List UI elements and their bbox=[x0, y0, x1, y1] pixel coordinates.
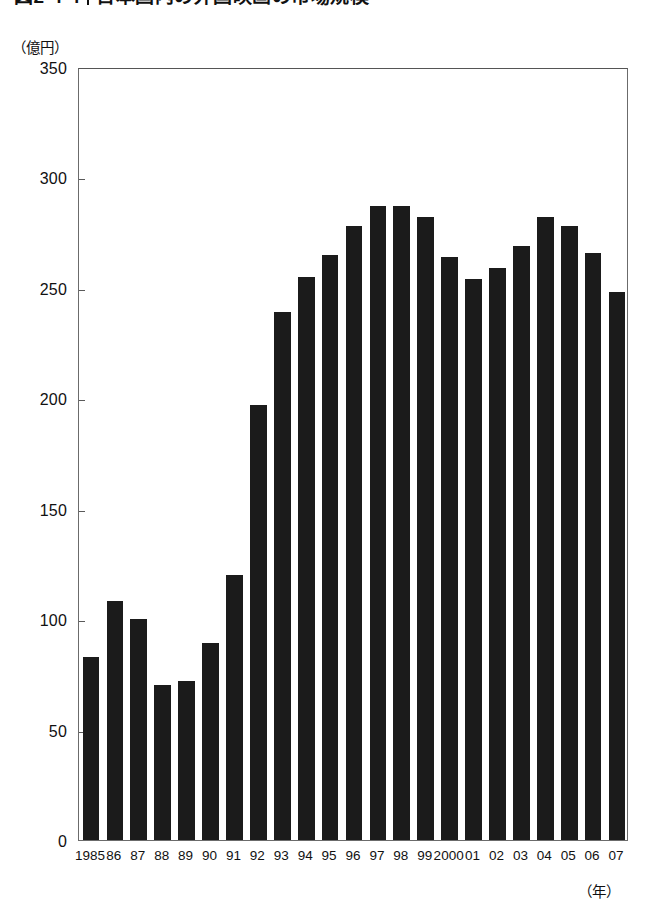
figure-container: 図2-4-4日本国内の外国映画の市場規模 （億円） 05010015020025… bbox=[0, 0, 652, 919]
bar bbox=[154, 685, 171, 840]
x-axis-tick-label: 90 bbox=[202, 848, 217, 863]
y-axis-tick-label: 100 bbox=[5, 612, 67, 630]
y-axis-tick-label: 300 bbox=[5, 170, 67, 188]
bar bbox=[393, 206, 410, 840]
y-axis-tick-label: 150 bbox=[5, 502, 67, 520]
x-axis-tick-label: 99 bbox=[417, 848, 432, 863]
bar-series bbox=[79, 69, 627, 840]
x-axis-tick-label: 98 bbox=[393, 848, 408, 863]
bar bbox=[298, 277, 315, 840]
x-axis-tick-label: 2000 bbox=[434, 848, 464, 863]
bar bbox=[274, 312, 291, 840]
x-axis-tick-label: 02 bbox=[489, 848, 504, 863]
bar bbox=[609, 292, 626, 840]
y-axis-tick-label: 250 bbox=[5, 281, 67, 299]
x-axis-tick-label: 03 bbox=[513, 848, 528, 863]
plot-area: 050100150200250300350 bbox=[78, 68, 628, 841]
bar bbox=[107, 601, 124, 840]
x-axis-tick-label: 05 bbox=[561, 848, 576, 863]
bar bbox=[83, 657, 100, 840]
bar bbox=[202, 643, 219, 840]
x-axis-tick-label: 95 bbox=[322, 848, 337, 863]
x-axis-tick-label: 04 bbox=[537, 848, 552, 863]
bar bbox=[250, 405, 267, 840]
y-axis-tick-label: 50 bbox=[5, 723, 67, 741]
title-divider bbox=[87, 0, 89, 5]
bar bbox=[465, 279, 482, 840]
y-axis-unit-label: （億円） bbox=[12, 36, 68, 57]
bar bbox=[585, 253, 602, 840]
x-axis-tick-label: 88 bbox=[154, 848, 169, 863]
bar bbox=[417, 217, 434, 840]
bar bbox=[489, 268, 506, 840]
y-axis-tick-label: 200 bbox=[5, 391, 67, 409]
bar bbox=[441, 257, 458, 840]
bar bbox=[561, 226, 578, 840]
bar bbox=[178, 681, 195, 840]
x-axis-tick-label: 01 bbox=[465, 848, 480, 863]
y-axis-tick-label: 0 bbox=[5, 833, 67, 851]
x-axis-tick-label: 93 bbox=[274, 848, 289, 863]
x-axis-tick-label: 92 bbox=[250, 848, 265, 863]
bar bbox=[226, 575, 243, 840]
bar bbox=[537, 217, 554, 840]
figure-title-text: 日本国内の外国映画の市場規模 bbox=[96, 0, 369, 7]
figure-number: 図2-4-4 bbox=[14, 0, 80, 7]
x-axis-tick-label: 91 bbox=[226, 848, 241, 863]
x-axis-unit-label: （年） bbox=[578, 880, 620, 901]
x-axis-tick-label: 1985 bbox=[75, 848, 105, 863]
x-axis-tick-label: 89 bbox=[178, 848, 193, 863]
y-axis-tick-label: 350 bbox=[5, 60, 67, 78]
x-axis-tick-label: 96 bbox=[345, 848, 360, 863]
bar bbox=[130, 619, 147, 840]
bar bbox=[513, 246, 530, 840]
x-axis-tick-label: 86 bbox=[106, 848, 121, 863]
figure-title: 図2-4-4日本国内の外国映画の市場規模 bbox=[14, 0, 369, 8]
bar bbox=[346, 226, 363, 840]
bar bbox=[322, 255, 339, 840]
x-axis-tick-label: 94 bbox=[298, 848, 313, 863]
x-axis-tick-label: 07 bbox=[609, 848, 624, 863]
x-axis-tick-label: 87 bbox=[130, 848, 145, 863]
x-axis-tick-label: 97 bbox=[369, 848, 384, 863]
x-axis-tick-label: 06 bbox=[585, 848, 600, 863]
bar bbox=[370, 206, 387, 840]
